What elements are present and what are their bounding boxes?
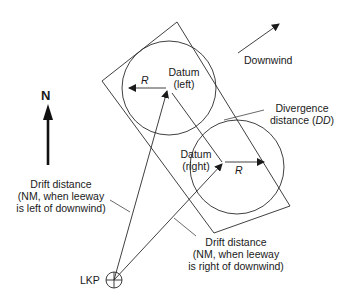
drift-right-label: Drift distance (NM, when leeway is right… — [184, 236, 288, 272]
drift-left-leader — [110, 200, 130, 212]
diagram-graphics — [0, 0, 343, 303]
datum-left-line1: Datum — [166, 66, 202, 78]
drift-right-leader — [174, 218, 196, 236]
divergence-label: Divergence distance (DD) — [266, 102, 338, 126]
lkp-label: LKP — [80, 274, 100, 286]
radius-right-label: R — [235, 164, 243, 176]
drift-left-line1: Drift distance — [12, 178, 110, 190]
drift-left-label: Drift distance (NM, when leeway is left … — [12, 178, 110, 214]
divergence-line2: distance (DD) — [266, 114, 338, 126]
divergence-leader — [224, 110, 264, 120]
drift-right-line3: is right of downwind) — [184, 260, 288, 272]
search-datum-diagram: N Downwind Datum (left) R Datum (right) … — [0, 0, 343, 303]
north-arrow-head — [43, 104, 53, 120]
divergence-abbr: DD — [315, 114, 330, 126]
north-label: N — [41, 90, 50, 102]
drift-right-line1: Drift distance — [184, 236, 288, 248]
datum-right-line1: Datum — [177, 148, 215, 160]
drift-left-line3: is left of downwind) — [12, 202, 110, 214]
datum-right-label: Datum (right) — [177, 148, 215, 172]
divergence-line1: Divergence — [266, 102, 338, 114]
radius-left-label: R — [141, 74, 149, 86]
lkp-symbol-icon — [106, 272, 122, 288]
downwind-label: Downwind — [244, 54, 292, 66]
datum-right-line2: (right) — [177, 160, 215, 172]
datum-left-label: Datum (left) — [166, 66, 202, 90]
datum-left-line2: (left) — [166, 78, 202, 90]
downwind-arrow — [238, 24, 279, 53]
drift-right-line2: (NM, when leeway — [184, 248, 288, 260]
drift-left-line2: (NM, when leeway — [12, 190, 110, 202]
